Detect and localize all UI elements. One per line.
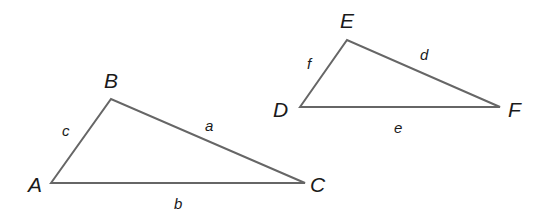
side-label-a: a [205,117,213,134]
vertex-label-e: E [340,9,355,32]
side-label-b: b [174,195,182,212]
triangle-abc: A B C c a b [26,69,326,212]
side-label-f: f [307,55,313,72]
triangle-abc-outline [51,99,305,183]
vertex-label-a: A [26,173,42,196]
vertex-label-c: C [310,173,326,196]
side-label-d: d [420,46,429,63]
triangle-def: D E F f d e [273,9,522,136]
vertex-label-b: B [104,69,118,92]
triangle-diagram: A B C c a b D E F f d e [0,0,544,213]
vertex-label-f: F [508,98,522,121]
diagram-svg: A B C c a b D E F f d e [0,0,544,213]
side-label-c: c [62,122,70,139]
side-label-e: e [394,119,402,136]
vertex-label-d: D [273,98,288,121]
triangle-def-outline [300,40,500,107]
